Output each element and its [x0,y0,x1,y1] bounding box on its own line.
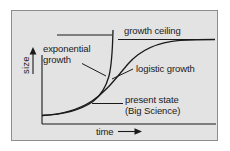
annotation-exponential-line2: growth [43,54,71,65]
annotation-present-state-line1: present state [125,94,179,105]
right-arrow-icon [135,128,143,135]
plot-graphics [0,0,230,151]
annotation-present-state-line2: (Big Science) [125,105,180,116]
annotation-exponential-growth: exponentialgrowth [43,44,91,65]
up-arrow-icon [30,47,37,55]
x-axis-label: time [96,127,114,138]
figure-root: growth ceiling exponentialgrowth logisti… [0,0,230,151]
annotation-present-state: present state(Big Science) [125,95,180,116]
annotation-exponential-line1: exponential [43,43,91,54]
y-axis-label: size [21,56,32,74]
annotation-logistic-growth: logistic growth [136,64,195,75]
exponential-leader-line [82,64,106,77]
annotation-growth-ceiling: growth ceiling [124,26,181,37]
